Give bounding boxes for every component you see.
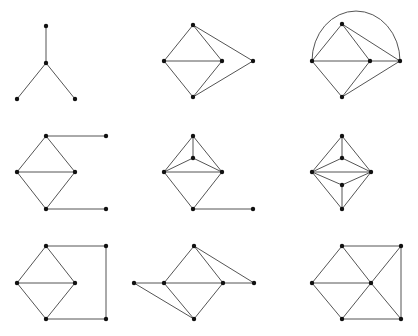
- node-inner: [191, 156, 195, 160]
- node-bottom-tail: [104, 207, 108, 211]
- edge-top-right: [342, 136, 371, 172]
- edge-far-bottom: [193, 61, 253, 97]
- edge-top-center: [342, 246, 371, 283]
- edge-left-bottom: [164, 283, 194, 319]
- edge-top-left: [164, 136, 193, 172]
- node-right: [73, 170, 77, 174]
- node-left: [15, 97, 19, 101]
- edge-top-right: [194, 246, 223, 283]
- node-left: [162, 170, 166, 174]
- graph-5: [162, 134, 255, 211]
- edge-right-inner-bottom: [342, 172, 371, 185]
- edge-left-bottom: [312, 172, 342, 209]
- edge-top-left: [164, 25, 193, 61]
- graph-1: [15, 24, 77, 101]
- node-left: [15, 281, 19, 285]
- graph-2: [162, 23, 255, 99]
- edge-top-far: [193, 25, 253, 61]
- edge-center-top-right: [371, 246, 401, 283]
- edge-left-bottom: [312, 61, 342, 97]
- edge-top-right: [193, 136, 222, 172]
- graph-7: [15, 244, 108, 321]
- edge-far-bottom: [342, 61, 400, 97]
- node-left: [310, 59, 314, 63]
- graph-9: [310, 244, 403, 321]
- edge-top-mid: [193, 25, 222, 61]
- edge-left-bottom: [17, 283, 46, 319]
- node-bottom: [340, 317, 344, 321]
- node-right: [220, 170, 224, 174]
- node-bottom: [191, 207, 195, 211]
- edge-center-bottom: [342, 283, 371, 319]
- node-top: [191, 23, 195, 27]
- edge-inner-left: [164, 158, 193, 172]
- graph-8: [132, 244, 256, 321]
- node-top-right: [104, 244, 108, 248]
- edge-right-bottom: [46, 172, 75, 209]
- node-top: [340, 244, 344, 248]
- node-far: [398, 59, 402, 63]
- node-bottom: [44, 207, 48, 211]
- node-left: [310, 281, 314, 285]
- edge-top-far-right: [194, 246, 254, 283]
- node-inner-bottom: [340, 183, 344, 187]
- node-inner-top: [340, 156, 344, 160]
- edge-top-left: [312, 246, 342, 283]
- node-left: [162, 59, 166, 63]
- edge-top-left: [312, 24, 342, 61]
- edge-right-bottom: [193, 172, 222, 209]
- node-right: [73, 97, 77, 101]
- edge-inner-top-right: [342, 158, 371, 172]
- node-center: [369, 281, 373, 285]
- node-tail: [251, 207, 255, 211]
- edge-left-bottom: [17, 172, 46, 209]
- node-right: [73, 281, 77, 285]
- node-right: [369, 170, 373, 174]
- node-top: [44, 134, 48, 138]
- node-mid: [220, 59, 224, 63]
- graph-6: [310, 134, 373, 211]
- edge-left-bottom: [312, 283, 342, 319]
- edge-top-left: [17, 246, 46, 283]
- edge-center-right: [46, 63, 75, 99]
- edge-right-bottom: [342, 172, 371, 209]
- node-bottom-right: [104, 317, 108, 321]
- edge-right-bottom: [46, 283, 75, 319]
- edge-center-bottom-right: [371, 283, 401, 319]
- edge-right-bottom: [194, 283, 223, 319]
- edge-left-bottom: [164, 172, 193, 209]
- node-far-left: [132, 281, 136, 285]
- edge-top-left: [17, 136, 46, 172]
- node-top: [192, 244, 196, 248]
- node-left: [15, 170, 19, 174]
- edge-left-inner-bottom: [312, 172, 342, 185]
- graph-grid-figure: [0, 0, 418, 336]
- node-far: [251, 59, 255, 63]
- node-top: [44, 24, 48, 28]
- node-top: [340, 134, 344, 138]
- node-right: [221, 281, 225, 285]
- edge-mid-bottom: [342, 61, 370, 97]
- node-top: [44, 244, 48, 248]
- edge-top-right: [46, 246, 75, 283]
- edge-top-left: [164, 246, 194, 283]
- node-top-right: [399, 244, 403, 248]
- edge-top-right: [46, 136, 75, 172]
- edge-left-bottom: [164, 61, 193, 97]
- graph-4: [15, 134, 108, 211]
- node-top-tail: [104, 134, 108, 138]
- graph-3: [310, 11, 402, 99]
- edge-inner-right: [193, 158, 222, 172]
- node-bottom: [191, 95, 195, 99]
- node-top: [191, 134, 195, 138]
- edge-top-mid: [342, 24, 370, 61]
- node-bottom: [44, 317, 48, 321]
- node-top: [340, 22, 344, 26]
- node-bottom: [340, 95, 344, 99]
- node-mid: [368, 59, 372, 63]
- node-bottom: [340, 207, 344, 211]
- node-bottom-right: [399, 317, 403, 321]
- edge-top-left: [312, 136, 342, 172]
- edge-mid-bottom: [193, 61, 222, 97]
- edge-inner-top-left: [312, 158, 342, 172]
